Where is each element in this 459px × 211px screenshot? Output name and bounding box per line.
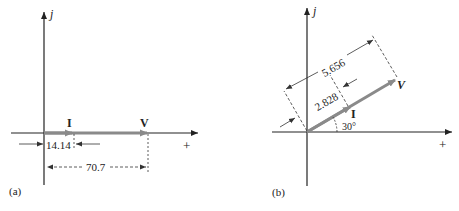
- dim-extension-V-b: [372, 35, 397, 77]
- real-axis-label-a: +: [183, 138, 190, 153]
- caption-a: (a): [9, 185, 22, 198]
- caption-b: (b): [272, 186, 285, 199]
- imag-axis-label-a: j: [48, 7, 54, 21]
- dim-extension-origin-b: [284, 91, 307, 131]
- phasor-diagram: j + I V 14.14 70.7 (a) j + I V 30°: [0, 0, 459, 211]
- phasor-I-label-b: I: [351, 107, 356, 121]
- panel-b: j + I V 30° 5.656 2.828 (b): [272, 4, 452, 199]
- real-axis-label-b: +: [439, 137, 446, 152]
- dim-I-value-b: 2.828: [313, 90, 341, 113]
- dim-I-arrow-right-b: [343, 79, 357, 87]
- dim-V-line-left-b: [286, 72, 318, 89]
- angle-arc-b: [333, 117, 337, 132]
- dim-V-value-a: 70.7: [86, 161, 106, 173]
- dim-V-value-b: 5.656: [320, 56, 348, 79]
- dim-V-line-right-b: [347, 40, 373, 55]
- angle-label-b: 30°: [342, 121, 356, 132]
- phasor-I-label-a: I: [67, 116, 72, 130]
- imag-axis-label-b: j: [311, 4, 317, 18]
- dim-I-arrow-left-b: [280, 118, 295, 127]
- phasor-V-label-b: V: [397, 78, 406, 92]
- phasor-V-label-a: V: [140, 116, 149, 130]
- panel-a: j + I V 14.14 70.7 (a): [9, 7, 198, 198]
- dim-I-value-a: 14.14: [46, 139, 71, 151]
